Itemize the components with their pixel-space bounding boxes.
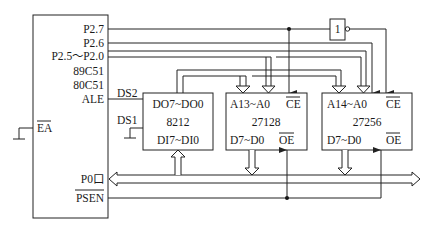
inverter-bubble [345,27,349,31]
eprom1-name: 27128 [252,116,281,128]
bus-arrow-icon [236,86,250,93]
chip-name-80c51: 80C51 [73,79,104,91]
eprom1-ce-label: CE [286,98,301,110]
bus-arrow-icon [357,86,370,93]
p27-wire [108,27,330,93]
pin-psen-label: PSEN [76,192,105,204]
latch-name: 8212 [167,116,190,128]
eprom1-data-bus-arrow [245,150,259,175]
eprom2-oe-label: OE [386,134,401,146]
eprom-27128: A13~A0 CE 27128 D7~D0 OE [226,93,307,150]
latch-input-bus-arrow [171,150,185,175]
pin-p27-label: P2.7 [83,23,104,35]
eprom1-addr-label: A13~A0 [230,98,270,110]
latch-address-bus [177,70,346,93]
bus-arrow-icon [262,86,275,93]
eprom2-data-bus-arrow [338,150,352,175]
bus-arrow-icon [332,86,346,93]
eprom1-data-label: D7~D0 [230,134,265,146]
inverter-symbol: 1 [335,23,341,35]
latch-in-label: DI7~DI0 [157,134,199,146]
pin-p25-p20-label: P2.5～P2.0 [51,50,104,62]
latch-8212: DO7~DO0 8212 DI7~DI0 [143,93,213,150]
pin-p0-label: P0口 [81,173,104,185]
ds1-label: DS1 [117,114,138,126]
inverter-gate: 1 [330,19,386,93]
pin-ea-label: EA [37,122,53,134]
p0-data-bus [109,172,420,186]
ea-ground-icon [13,128,33,139]
latch-out-label: DO7~DO0 [153,98,204,110]
eprom2-data-label: D7~D0 [327,134,362,146]
memory-expansion-circuit: P2.7 P2.6 P2.5～P2.0 89C51 80C51 ALE EA P… [0,0,431,231]
eprom2-addr-label: A14~A0 [327,98,367,110]
eprom-27256: A14~A0 CE 27256 D7~D0 OE [322,93,412,150]
ds2-label: DS2 [117,87,138,99]
pin-p26-label: P2.6 [83,37,104,49]
eprom2-ce-label: CE [386,98,401,110]
eprom2-name: 27256 [353,116,382,128]
mcu-chip: P2.7 P2.6 P2.5～P2.0 89C51 80C51 ALE EA P… [33,15,108,218]
eprom1-oe-label: OE [279,134,294,146]
ds1-ground-icon [124,128,143,138]
pin-ale-label: ALE [82,93,104,105]
chip-name-89c51: 89C51 [73,65,104,77]
